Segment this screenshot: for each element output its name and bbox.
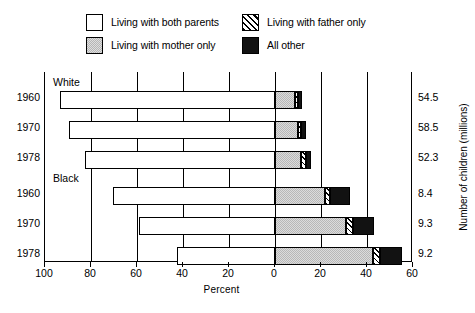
group-caption-black: Black [53,173,79,184]
segment-both-parents [113,187,275,205]
segment-all-other [301,121,306,139]
legend-item-both-parents: Living with both parents [86,14,219,31]
x-tick-label-60r: 60 [406,268,418,279]
x-tick-label-80: 80 [84,268,96,279]
y2-label-white-1960: 54.5 [418,92,438,103]
segment-mother-only [275,217,346,235]
segment-mother-only [275,151,301,169]
plot-area: White Black [44,72,412,262]
legend-label-all-other: All other [267,40,305,51]
y-label-black-1960: 1960 [0,188,40,199]
segment-mother-only [275,187,325,205]
legend-label-both-parents: Living with both parents [111,17,219,28]
y2-label-black-1970: 9.3 [418,218,433,229]
y-axis-right-title-wrap: Number of children (millions) [440,0,460,72]
y-label-white-1960: 1960 [0,92,40,103]
x-tick-label-20l: 20 [222,268,234,279]
segment-mother-only [275,91,295,109]
segment-both-parents [139,217,275,235]
y-label-black-1970: 1970 [0,218,40,229]
group-caption-white: White [53,77,80,88]
segment-mother-only [275,121,298,139]
y2-label-white-1978: 52.3 [418,152,438,163]
legend-swatch-both-parents-icon [86,14,103,31]
legend-label-father-only: Living with father only [267,17,366,28]
legend-swatch-father-only-icon [242,14,259,31]
y2-label-white-1970: 58.5 [418,122,438,133]
legend-item-father-only: Living with father only [242,14,366,31]
x-tick-label-100: 100 [35,268,53,279]
legend-swatch-all-other-icon [242,37,259,54]
x-tick-label-40l: 40 [176,268,188,279]
y2-label-black-1960: 8.4 [418,188,433,199]
legend-swatch-mother-only-icon [86,37,103,54]
chart-figure: Living with both parents Living with fat… [0,0,475,313]
segment-both-parents [69,121,275,139]
y-label-black-1978: 1978 [0,248,40,259]
y-axis-right-title: Number of children (millions) [454,72,474,262]
x-tick-label-60l: 60 [130,268,142,279]
x-tick-label-40r: 40 [360,268,372,279]
y-label-white-1978: 1978 [0,152,40,163]
y-label-white-1970: 1970 [0,122,40,133]
segment-both-parents [60,91,275,109]
x-axis-title-wrap: Percent [0,284,475,295]
segment-all-other [298,91,302,109]
chart-legend: Living with both parents Living with fat… [86,14,406,58]
segment-both-parents [85,151,275,169]
x-tick-label-0: 0 [271,268,277,279]
legend-item-mother-only: Living with mother only [86,37,216,54]
y-axis-left-labels: 1960 1970 1978 1960 1970 1978 [0,72,40,262]
legend-label-mother-only: Living with mother only [111,40,216,51]
segment-all-other [330,187,350,205]
x-axis-title: Percent [204,284,240,295]
legend-item-all-other: All other [242,37,305,54]
segment-all-other [353,217,374,235]
y-axis-right-labels: 54.5 58.5 52.3 8.4 9.3 9.2 [418,72,458,262]
segment-father-only [346,217,353,235]
segment-all-other [306,151,311,169]
x-axis: 100 80 60 40 20 0 20 40 60 [0,262,475,278]
x-tick-label-20r: 20 [314,268,326,279]
y2-label-black-1978: 9.2 [418,248,433,259]
